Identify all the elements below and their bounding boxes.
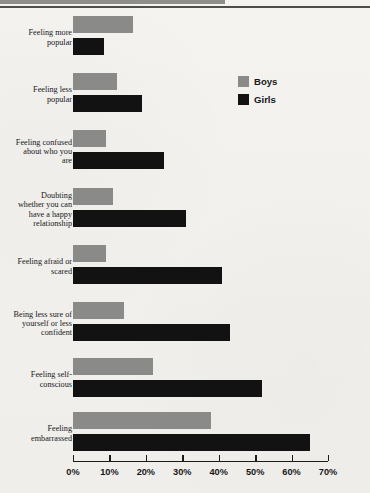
axis-tick-label: 20% (126, 467, 166, 477)
category-label: Doubtingwhether you canhave a happyrelat… (0, 191, 72, 229)
legend-swatch (238, 94, 249, 105)
chart-legend: BoysGirls (238, 74, 318, 110)
x-axis-line (73, 461, 328, 462)
axis-tick (328, 455, 329, 461)
axis-tick-label: 10% (89, 467, 129, 477)
title-divider-rule (0, 6, 370, 8)
bar-chart: Feeling morepopularFeeling lesspopularFe… (0, 0, 370, 493)
bar-girls (73, 380, 262, 397)
axis-tick (292, 455, 293, 461)
category-label: Feeling afraid orscared (0, 257, 72, 276)
x-axis: 0%10%20%30%40%50%60%70% (0, 461, 370, 493)
axis-tick (219, 455, 220, 461)
bar-girls (73, 434, 310, 451)
axis-tick (255, 455, 256, 461)
axis-tick-label: 40% (199, 467, 239, 477)
category-label: Feelingembarrassed (0, 424, 72, 443)
bar-girls (73, 210, 186, 227)
axis-tick (146, 455, 147, 461)
bar-girls (73, 38, 104, 55)
bar-girls (73, 324, 230, 341)
bar-girls (73, 95, 142, 112)
axis-tick-label: 60% (272, 467, 312, 477)
axis-tick-label: 0% (53, 467, 93, 477)
bar-boys (73, 412, 211, 429)
category-label: Feeling confusedabout who youare (0, 138, 72, 166)
bar-girls (73, 152, 164, 169)
legend-label: Boys (254, 76, 277, 87)
bar-boys (73, 130, 106, 147)
bar-boys (73, 16, 133, 33)
legend-item: Boys (238, 74, 318, 89)
category-label: Feeling self-conscious (0, 370, 72, 389)
legend-item: Girls (238, 92, 318, 107)
axis-tick-label: 70% (308, 467, 348, 477)
axis-tick (182, 455, 183, 461)
axis-tick-label: 30% (162, 467, 202, 477)
bar-boys (73, 245, 106, 262)
legend-label: Girls (254, 94, 276, 105)
bar-boys (73, 302, 124, 319)
axis-tick (73, 455, 74, 461)
category-label: Feeling morepopular (0, 28, 72, 47)
axis-tick-label: 50% (235, 467, 275, 477)
bar-boys (73, 188, 113, 205)
clipped-title-rule-upper (0, 0, 225, 4)
bar-girls (73, 267, 222, 284)
legend-swatch (238, 76, 249, 87)
bar-boys (73, 358, 153, 375)
category-label: Being less sure ofyourself or lessconfid… (0, 310, 72, 338)
axis-tick (109, 455, 110, 461)
bar-boys (73, 73, 117, 90)
category-label: Feeling lesspopular (0, 85, 72, 104)
